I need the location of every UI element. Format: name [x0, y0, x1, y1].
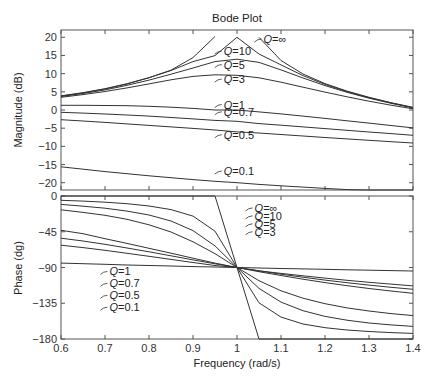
magnitude-annotation: Q=0.7: [224, 106, 254, 118]
chart-title: Bode Plot: [212, 12, 263, 24]
frequency-tick-label: 0.7: [97, 342, 112, 354]
frequency-tick-label: 1.3: [361, 342, 376, 354]
magnitude-ytick-label: −10: [38, 140, 57, 152]
magnitude-ytick-label: −20: [38, 177, 57, 189]
phase-ytick-label: −45: [38, 226, 57, 238]
phase-plot: 0−45−90−135−180 Q=∞Q=10Q=5Q=3Q=1Q=0.7Q=0…: [12, 190, 413, 345]
bode-plot-figure: Bode Plot 20151050−5−10−15−20 Q=∞Q=10Q=5…: [0, 0, 432, 385]
magnitude-ytick-label: −15: [38, 159, 57, 171]
magnitude-annotation: Q=3: [224, 73, 245, 85]
frequency-tick-labels: 0.60.70.80.911.11.21.31.4: [53, 342, 420, 354]
phase-annotation: Q=0.5: [109, 289, 139, 301]
magnitude-annotation: Q=0.5: [224, 129, 254, 141]
frequency-tick-label: 1.4: [405, 342, 420, 354]
magnitude-ytick-label: −5: [44, 122, 57, 134]
phase-ytick-label: 0: [51, 190, 57, 202]
magnitude-ytick-label: 20: [45, 31, 57, 43]
frequency-tick-label: 1: [234, 342, 240, 354]
magnitude-ytick-label: 15: [45, 49, 57, 61]
phase-ytick-label: −135: [32, 297, 57, 309]
phase-annotation: Q=0.1: [109, 301, 139, 313]
magnitude-annotation: Q=10: [224, 45, 251, 57]
phase-ylabel: Phase (dg): [12, 241, 24, 295]
magnitude-annotation: Q=∞: [263, 33, 286, 45]
magnitude-annotation: Q=5: [224, 59, 245, 71]
frequency-tick-label: 0.8: [141, 342, 156, 354]
magnitude-ytick-label: 0: [51, 104, 57, 116]
frequency-tick-label: 0.9: [185, 342, 200, 354]
frequency-tick-label: 1.1: [273, 342, 288, 354]
frequency-tick-label: 0.6: [53, 342, 68, 354]
phase-ytick-label: −90: [38, 262, 57, 274]
magnitude-ytick-label: 10: [45, 68, 57, 80]
phase-annotation: Q=1: [109, 265, 130, 277]
phase-annotation: Q=0.7: [109, 277, 139, 289]
frequency-xlabel: Frequency (rad/s): [194, 357, 281, 369]
magnitude-ylabel: Magnitude (dB): [12, 72, 24, 147]
magnitude-annotation: Q=0.1: [224, 165, 254, 177]
frequency-tick-label: 1.2: [317, 342, 332, 354]
magnitude-ytick-label: 5: [51, 86, 57, 98]
magnitude-plot: 20151050−5−10−15−20 Q=∞Q=10Q=5Q=3Q=1Q=0.…: [12, 30, 413, 190]
phase-annotation: Q=3: [255, 226, 276, 238]
